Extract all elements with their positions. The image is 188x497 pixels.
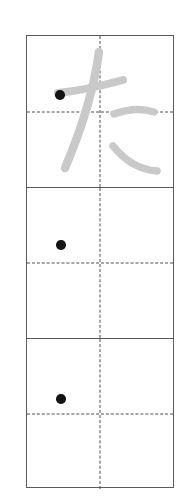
- center-vertical-dashed-guide: [100, 188, 101, 338]
- hiragana-practice-worksheet: [0, 0, 188, 497]
- grid-cell-3[interactable]: [27, 338, 173, 489]
- grid-cell-2[interactable]: [27, 187, 173, 338]
- stroke-start-dot: [56, 394, 66, 404]
- stroke-start-dot: [55, 90, 65, 100]
- center-vertical-dashed-guide: [100, 339, 101, 489]
- grid-cell-1[interactable]: [27, 36, 173, 187]
- traced-character-ta: [27, 36, 175, 187]
- stroke-start-dot: [56, 240, 66, 250]
- writing-grid: [26, 35, 174, 488]
